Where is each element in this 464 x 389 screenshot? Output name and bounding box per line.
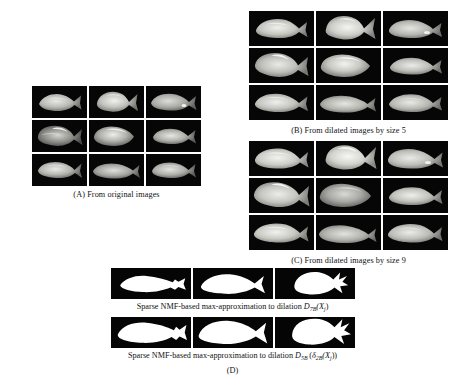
fish-binary-tile xyxy=(193,268,273,299)
fish-binary-tile xyxy=(111,317,191,348)
fish-binary-tile xyxy=(111,268,191,299)
panel-a-caption: (A) From original images xyxy=(32,190,201,199)
panel-d-row-1-caption-prefix: Sparse NMF-based max-approximation to di… xyxy=(137,302,304,311)
panel-c-caption: (C) From dilated images by size 9 xyxy=(249,256,448,265)
fish-tile xyxy=(316,178,381,213)
fish-tile xyxy=(316,85,381,120)
fish-tile xyxy=(89,120,144,152)
panel-a-tile-grid xyxy=(32,86,201,186)
fish-tile xyxy=(89,86,144,118)
fish-binary-tile xyxy=(275,317,355,348)
panel-d-row-2-tiles xyxy=(95,317,370,348)
fish-tile xyxy=(383,11,448,46)
panel-d-label: (D) xyxy=(95,366,370,375)
fish-tile xyxy=(249,48,314,83)
fish-tile xyxy=(249,11,314,46)
fish-tile xyxy=(249,85,314,120)
fish-tile xyxy=(316,141,381,176)
panel-d: Sparse NMF-based max-approximation to di… xyxy=(95,268,370,375)
panel-c: (C) From dilated images by size 9 xyxy=(249,141,448,250)
fish-tile xyxy=(32,86,87,118)
fish-tile xyxy=(32,154,87,186)
panel-d-row-2: Sparse NMF-based max-approximation to di… xyxy=(95,317,370,361)
panel-d-row-1-caption: Sparse NMF-based max-approximation to di… xyxy=(95,302,370,312)
fish-binary-tile xyxy=(193,317,273,348)
panel-a: (A) From original images xyxy=(32,86,201,186)
fish-tile xyxy=(89,154,144,186)
panel-c-tile-grid xyxy=(249,141,448,250)
panel-d-row-2-argument-close: )) xyxy=(332,351,337,360)
panel-b-caption: (B) From dilated images by size 5 xyxy=(249,126,448,135)
panel-d-row-2-caption: Sparse NMF-based max-approximation to di… xyxy=(95,351,370,361)
figure-root: (A) From original images xyxy=(0,0,464,389)
fish-tile xyxy=(146,154,201,186)
fish-tile xyxy=(249,141,314,176)
fish-tile xyxy=(383,215,448,250)
fish-tile xyxy=(32,120,87,152)
fish-tile xyxy=(383,141,448,176)
panel-d-row-1-argument: (X xyxy=(316,302,324,311)
fish-tile xyxy=(249,178,314,213)
panel-b-tile-grid xyxy=(249,11,448,120)
fish-binary-tile xyxy=(275,268,355,299)
fish-tile xyxy=(146,120,201,152)
fish-tile xyxy=(146,86,201,118)
fish-tile xyxy=(316,48,381,83)
panel-d-row-1-argument-close: ) xyxy=(326,302,329,311)
panel-d-row-1-tiles xyxy=(95,268,370,299)
fish-tile xyxy=(383,48,448,83)
panel-d-row-2-argument: (X xyxy=(322,351,330,360)
panel-d-row-1: Sparse NMF-based max-approximation to di… xyxy=(95,268,370,312)
fish-tile xyxy=(316,215,381,250)
panel-b: (B) From dilated images by size 5 xyxy=(249,11,448,120)
fish-tile xyxy=(316,11,381,46)
fish-tile xyxy=(383,85,448,120)
fish-tile xyxy=(383,178,448,213)
panel-d-row-2-caption-prefix: Sparse NMF-based max-approximation to di… xyxy=(128,351,295,360)
fish-tile xyxy=(249,215,314,250)
